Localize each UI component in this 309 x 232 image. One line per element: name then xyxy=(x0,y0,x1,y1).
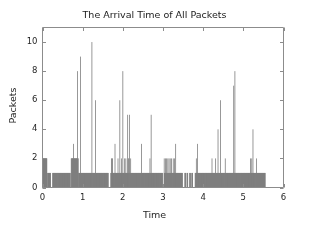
chart-figure: The Arrival Time of All Packets Time Pac… xyxy=(0,0,309,232)
packets-arrival-bar-chart xyxy=(0,0,309,232)
